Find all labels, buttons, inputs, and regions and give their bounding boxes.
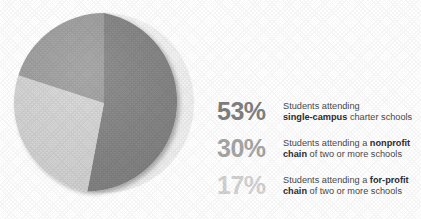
legend-line1-bold-2: for-profit	[370, 175, 409, 185]
legend-line2-bold-2: chain	[283, 186, 307, 196]
legend-description-single-campus: Students attending single-campus charter…	[283, 92, 421, 124]
legend-line1-prefix-1: Students attending a	[283, 138, 370, 148]
legend-line2-suffix-1: of two or more schools	[307, 149, 402, 159]
legend-line1-bold-1: nonprofit	[370, 138, 410, 148]
legend: 53% Students attending single-campus cha…	[217, 92, 421, 203]
legend-item-single-campus: 53% Students attending single-campus cha…	[217, 92, 421, 129]
legend-item-for-profit-chain: 17% Students attending a for-profit chai…	[217, 166, 421, 203]
legend-line2-bold-0: single-campus	[283, 112, 347, 122]
pie-chart-graphic	[11, 8, 199, 198]
legend-line1-prefix-0: Students attending	[283, 101, 360, 111]
legend-percent-single-campus: 53%	[217, 92, 283, 125]
legend-description-nonprofit-chain: Students attending a nonprofit chain of …	[283, 129, 421, 161]
pie-sheen-overlay	[14, 13, 194, 193]
legend-line2-suffix-2: of two or more schools	[307, 186, 402, 196]
legend-line2-suffix-0: charter schools	[347, 112, 412, 122]
pie-chart-figure: 53% Students attending single-campus cha…	[0, 0, 421, 219]
legend-description-for-profit-chain: Students attending a for-profit chain of…	[283, 166, 421, 198]
pie-svg	[11, 8, 199, 198]
legend-line2-bold-1: chain	[283, 149, 307, 159]
legend-percent-for-profit-chain: 17%	[217, 166, 283, 199]
legend-percent-nonprofit-chain: 30%	[217, 129, 283, 162]
legend-item-nonprofit-chain: 30% Students attending a nonprofit chain…	[217, 129, 421, 166]
legend-line1-prefix-2: Students attending a	[283, 175, 370, 185]
